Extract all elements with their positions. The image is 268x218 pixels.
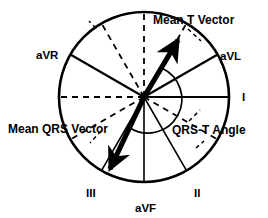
- label-lead-I: I: [242, 91, 245, 103]
- label-aVF: aVF: [135, 202, 156, 214]
- label-qrs-t-angle: QRS-T Angle: [172, 123, 246, 137]
- leader-upper-left-tick: [89, 21, 96, 28]
- leader-qrs-t-angle: [189, 110, 200, 121]
- label-aVR: aVR: [36, 49, 59, 61]
- label-lead-III: III: [86, 187, 96, 199]
- label-mean-qrs-vector: Mean QRS Vector: [8, 122, 108, 136]
- label-mean-t-vector: Mean T Vector: [153, 13, 235, 27]
- hexaxial-diagram: Mean T Vector Mean QRS Vector QRS-T Angl…: [0, 0, 268, 218]
- axis-aVR: [70, 55, 144, 98]
- figure-canvas: Mean T Vector Mean QRS Vector QRS-T Angl…: [0, 0, 268, 218]
- label-lead-II: II: [194, 187, 200, 199]
- label-aVL: aVL: [220, 50, 241, 62]
- leader-lower-right-tick: [196, 141, 204, 148]
- mean-qrs-vector-arrow: [110, 97, 144, 169]
